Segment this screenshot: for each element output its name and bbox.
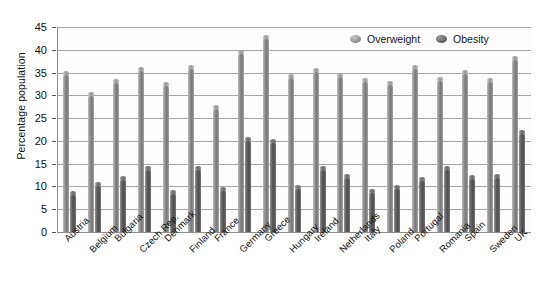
bar-obesity — [145, 168, 151, 232]
y-tick-label: 35 — [21, 67, 47, 79]
y-tick-mark — [52, 209, 56, 210]
bar-group — [381, 27, 406, 232]
bar-group — [506, 27, 531, 232]
chart-legend: OverweightObesity — [350, 33, 489, 45]
y-tick-label: 15 — [21, 158, 47, 170]
legend-label: Overweight — [367, 33, 420, 45]
y-tick-label: 5 — [21, 203, 47, 215]
bar-group — [356, 27, 381, 232]
y-tick-mark — [52, 118, 56, 119]
bar-overweight — [88, 94, 94, 232]
x-axis-labels: AustriaBelgiumBulgariaCzech Rep.DenmarkF… — [57, 234, 531, 301]
bar-overweight — [512, 58, 518, 232]
bar-overweight — [437, 79, 443, 232]
bar-overweight — [138, 69, 144, 232]
y-tick-mark — [52, 27, 56, 28]
bar-overweight — [263, 37, 269, 232]
bar-overweight — [337, 75, 343, 232]
bar-overweight — [113, 81, 119, 232]
bar-group — [406, 27, 431, 232]
y-tick-mark — [52, 164, 56, 165]
legend-item: Obesity — [436, 33, 489, 45]
legend-label: Obesity — [453, 33, 489, 45]
bar-overweight — [288, 76, 294, 232]
chart-container: Percentage population 051015202530354045… — [0, 0, 540, 301]
bar-overweight — [362, 80, 368, 232]
bar-obesity — [295, 187, 301, 232]
bar-overweight — [213, 107, 219, 232]
bar-group — [132, 27, 157, 232]
bar-group — [431, 27, 456, 232]
bar-group — [182, 27, 207, 232]
y-tick-label: 20 — [21, 135, 47, 147]
bar-group — [331, 27, 356, 232]
y-tick-mark — [52, 141, 56, 142]
bar-obesity — [519, 132, 525, 232]
bar-obesity — [494, 176, 500, 232]
y-tick-label: 40 — [21, 44, 47, 56]
bar-group — [82, 27, 107, 232]
y-tick-mark — [52, 95, 56, 96]
y-tick-label: 10 — [21, 180, 47, 192]
y-tick-label: 0 — [21, 226, 47, 238]
legend-item: Overweight — [350, 33, 420, 45]
bar-group — [57, 27, 82, 232]
y-tick-mark — [52, 73, 56, 74]
bar-overweight — [462, 72, 468, 232]
bar-overweight — [163, 84, 169, 232]
bar-obesity — [95, 184, 101, 232]
bar-obesity — [344, 176, 350, 232]
bar-overweight — [238, 52, 244, 232]
bar-obesity — [444, 168, 450, 232]
bar-overweight — [387, 83, 393, 232]
bar-group — [232, 27, 257, 232]
bar-group — [307, 27, 332, 232]
bar-group — [456, 27, 481, 232]
bar-group — [207, 27, 232, 232]
bar-group — [157, 27, 182, 232]
obesity-swatch — [436, 35, 447, 43]
bar-obesity — [270, 141, 276, 232]
y-tick-label: 30 — [21, 89, 47, 101]
bar-groups — [57, 27, 531, 232]
y-tick-label: 45 — [21, 21, 47, 33]
y-tick-mark — [52, 232, 56, 233]
bar-obesity — [245, 139, 251, 232]
bar-overweight — [313, 70, 319, 232]
bar-group — [257, 27, 282, 232]
bar-group — [481, 27, 506, 232]
overweight-swatch — [350, 35, 361, 43]
bar-overweight — [487, 80, 493, 232]
bar-group — [282, 27, 307, 232]
bar-overweight — [412, 67, 418, 232]
bar-overweight — [188, 67, 194, 232]
y-tick-label: 25 — [21, 112, 47, 124]
bar-obesity — [394, 187, 400, 232]
y-tick-mark — [52, 50, 56, 51]
bar-obesity — [195, 168, 201, 232]
bar-overweight — [63, 73, 69, 232]
bar-group — [107, 27, 132, 232]
y-tick-mark — [52, 186, 56, 187]
